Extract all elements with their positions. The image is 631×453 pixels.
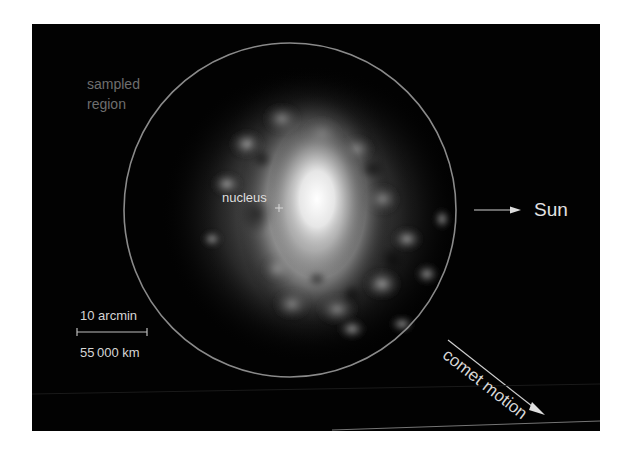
sampled-region-label-line2: region	[87, 97, 126, 111]
scale-distance-label: 55 000 km	[80, 346, 140, 359]
scale-angular-label: 10 arcmin	[80, 309, 137, 322]
nucleus-label: nucleus	[222, 191, 267, 204]
sun-arrow-icon	[474, 207, 521, 214]
sun-label: Sun	[534, 200, 568, 219]
comet-image-panel: sampled region nucleus Sun 10 arcmin 55 …	[32, 24, 600, 431]
sampled-region-label-line1: sampled	[87, 77, 140, 91]
scale-bar	[77, 328, 147, 336]
